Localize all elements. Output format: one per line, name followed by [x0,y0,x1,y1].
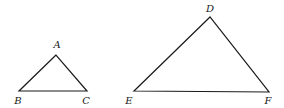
triangle-def: D E F [124,3,272,106]
vertex-label-a: A [52,39,60,50]
triangle-abc-shape [19,55,87,91]
similar-triangles-diagram: A B C D E F [0,0,284,108]
vertex-label-e: E [124,95,133,106]
vertex-label-c: C [82,95,90,106]
triangle-abc: A B C [13,39,90,106]
vertex-label-b: B [13,95,21,106]
vertex-label-d: D [205,3,214,14]
triangle-def-shape [134,17,269,92]
vertex-label-f: F [264,95,273,106]
